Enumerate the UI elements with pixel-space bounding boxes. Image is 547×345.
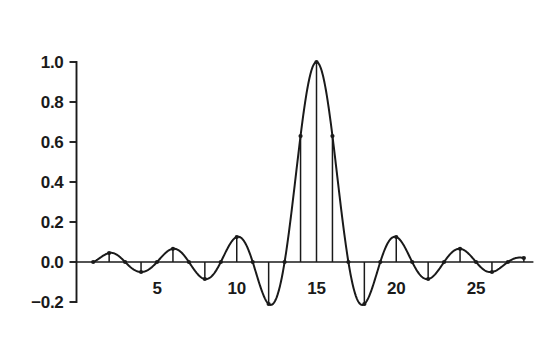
data-point-marker (394, 235, 398, 239)
x-axis-tick-labels: 510152025 (152, 279, 485, 298)
data-point-markers (91, 60, 526, 306)
data-point-marker (362, 302, 366, 306)
plot-canvas: −0.20.00.20.40.60.81.0 510152025 (0, 0, 547, 345)
data-point-marker (330, 134, 334, 138)
data-point-marker (203, 277, 207, 281)
data-point-marker (91, 260, 95, 264)
data-point-marker (474, 260, 478, 264)
data-point-marker (490, 270, 494, 274)
data-point-marker (187, 260, 191, 264)
y-axis-tick-label: 1.0 (41, 53, 64, 72)
data-point-marker (251, 260, 255, 264)
sinc-stem-chart: −0.20.00.20.40.60.81.0 510152025 (0, 0, 547, 345)
data-point-marker (410, 260, 414, 264)
data-point-marker (378, 260, 382, 264)
x-axis-tick-label: 5 (152, 279, 161, 298)
data-point-marker (298, 134, 302, 138)
x-axis-tick-label: 20 (387, 279, 405, 298)
x-axis-tick-label: 25 (467, 279, 485, 298)
y-axis-tick-label: 0.0 (41, 253, 64, 272)
data-point-marker (171, 247, 175, 251)
data-point-marker (107, 251, 111, 255)
y-axis-tick-label: 0.2 (41, 213, 64, 232)
y-axis-tick-label: −0.2 (31, 293, 63, 312)
y-axis-tick-label: 0.8 (41, 93, 64, 112)
data-point-marker (267, 302, 271, 306)
y-axis-tick-labels: −0.20.00.20.40.60.81.0 (31, 53, 64, 312)
data-point-marker (458, 247, 462, 251)
y-axis-tick-label: 0.4 (41, 173, 65, 192)
x-axis-tick-label: 15 (307, 279, 325, 298)
data-point-marker (426, 277, 430, 281)
y-axis-tick-label: 0.6 (41, 133, 64, 152)
y-axis-tick-marks (70, 62, 77, 302)
data-point-marker (283, 260, 287, 264)
data-point-marker (314, 60, 318, 64)
data-point-marker (522, 256, 526, 260)
x-axis-tick-label: 10 (228, 279, 246, 298)
data-point-marker (139, 270, 143, 274)
data-point-marker (442, 260, 446, 264)
data-point-marker (219, 260, 223, 264)
data-point-marker (346, 260, 350, 264)
sinc-curve (93, 62, 524, 305)
data-point-marker (123, 260, 127, 264)
stem-lines (109, 62, 524, 304)
data-point-marker (235, 235, 239, 239)
data-point-marker (155, 260, 159, 264)
data-point-marker (506, 260, 510, 264)
